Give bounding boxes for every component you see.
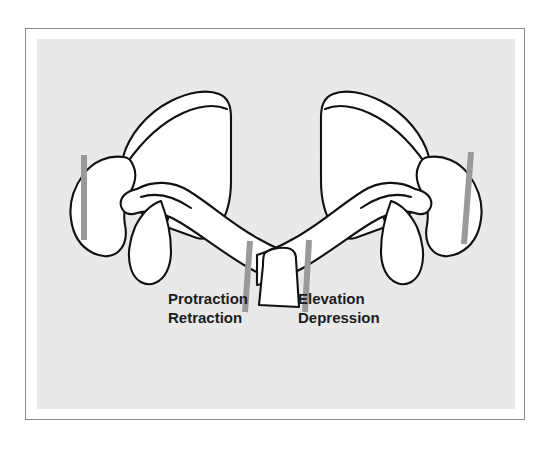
label-depression: Depression — [298, 308, 380, 327]
anatomy-diagram — [37, 39, 515, 409]
figure-panel — [37, 39, 515, 409]
manubrium-sterni — [259, 248, 299, 307]
elevation-depression-label: Elevation Depression — [298, 289, 380, 327]
figure-frame — [25, 28, 525, 420]
label-retraction: Retraction — [168, 308, 248, 327]
label-elevation: Elevation — [298, 289, 380, 308]
protraction-retraction-label: Protraction Retraction — [168, 289, 248, 327]
label-protraction: Protraction — [168, 289, 248, 308]
